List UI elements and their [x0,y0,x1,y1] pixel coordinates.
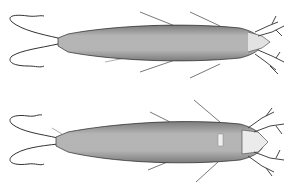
illustration [0,0,295,190]
specimen-ventral-view [10,100,284,182]
specimen-dorsal-view [10,12,284,78]
